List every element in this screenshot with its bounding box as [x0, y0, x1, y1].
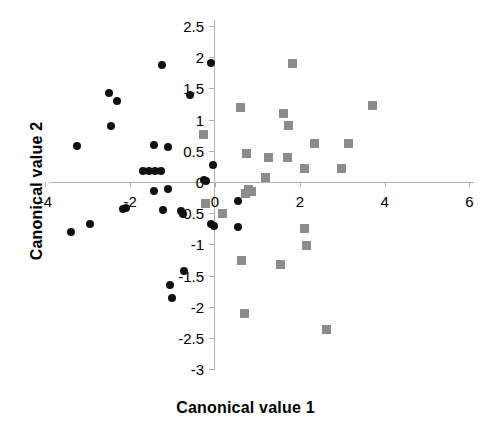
y-tick-label: 2.5	[152, 18, 204, 35]
data-point-group-2	[310, 139, 319, 148]
data-point-group-2	[337, 164, 346, 173]
y-tick	[209, 276, 214, 277]
data-point-group-1	[210, 222, 218, 230]
y-tick	[209, 244, 214, 245]
x-tick	[469, 182, 470, 187]
x-tick-label: 4	[380, 193, 388, 210]
data-point-group-1	[158, 61, 166, 69]
y-tick-label: -2	[152, 298, 204, 315]
y-tick	[209, 88, 214, 89]
data-point-group-2	[236, 103, 245, 112]
x-tick-label: 6	[465, 193, 473, 210]
data-point-group-2	[199, 130, 208, 139]
y-tick-label: -2.5	[152, 330, 204, 347]
data-point-group-1	[150, 187, 158, 195]
x-tick-label: 0	[211, 193, 219, 210]
y-tick	[209, 182, 214, 183]
y-tick	[209, 369, 214, 370]
data-point-group-2	[237, 256, 246, 265]
y-tick	[209, 120, 214, 121]
x-tick	[130, 182, 131, 187]
data-point-group-1	[164, 185, 172, 193]
data-point-group-1	[186, 91, 194, 99]
x-axis-title: Canonical value 1	[0, 399, 491, 417]
data-point-group-2	[218, 209, 227, 218]
y-tick	[209, 338, 214, 339]
data-point-group-1	[168, 294, 176, 302]
data-point-group-1	[73, 142, 81, 150]
y-axis-title: Canonical value 2	[28, 66, 46, 316]
data-point-group-1	[234, 197, 242, 205]
y-tick	[209, 26, 214, 27]
data-point-group-1	[209, 161, 217, 169]
y-tick	[209, 213, 214, 214]
data-point-group-2	[240, 309, 249, 318]
scatter-plot-figure: -4-20246 2.521.510.50-0.5-1-1.5-2-2.5-3 …	[0, 0, 491, 425]
y-tick-label: -3	[152, 361, 204, 378]
data-point-group-1	[166, 281, 174, 289]
x-tick	[215, 182, 216, 187]
data-point-group-2	[300, 224, 309, 233]
data-point-group-2	[344, 139, 353, 148]
x-tick	[300, 182, 301, 187]
data-point-group-1	[113, 97, 121, 105]
data-point-group-2	[288, 59, 297, 68]
y-tick	[209, 151, 214, 152]
data-point-group-2	[283, 153, 292, 162]
y-tick-label: 1.5	[152, 80, 204, 97]
data-point-group-2	[247, 187, 256, 196]
data-point-group-1	[86, 220, 94, 228]
plot-area: -4-20246 2.521.510.50-0.5-1-1.5-2-2.5-3	[0, 0, 491, 395]
data-point-group-2	[201, 199, 210, 208]
y-tick	[209, 307, 214, 308]
data-point-group-1	[119, 205, 127, 213]
data-point-group-2	[264, 153, 273, 162]
data-point-group-2	[261, 173, 270, 182]
data-point-group-1	[150, 141, 158, 149]
data-point-group-2	[279, 109, 288, 118]
data-point-group-2	[368, 101, 377, 110]
data-point-group-2	[302, 241, 311, 250]
y-tick-label: -1.5	[152, 267, 204, 284]
data-point-group-1	[234, 223, 242, 231]
data-point-group-2	[322, 325, 331, 334]
x-tick-label: 2	[296, 193, 304, 210]
data-point-group-2	[276, 260, 285, 269]
y-tick-label: 0	[152, 174, 204, 191]
x-axis-line	[49, 182, 474, 183]
y-tick	[209, 57, 214, 58]
data-point-group-2	[242, 149, 251, 158]
y-tick-label: 1	[152, 111, 204, 128]
y-tick-label: 0.5	[152, 142, 204, 159]
data-point-group-1	[105, 89, 113, 97]
y-tick-label: -1	[152, 236, 204, 253]
data-point-group-2	[284, 121, 293, 130]
data-point-group-1	[67, 228, 75, 236]
data-point-group-1	[107, 122, 115, 130]
x-tick	[385, 182, 386, 187]
data-point-group-2	[300, 164, 309, 173]
